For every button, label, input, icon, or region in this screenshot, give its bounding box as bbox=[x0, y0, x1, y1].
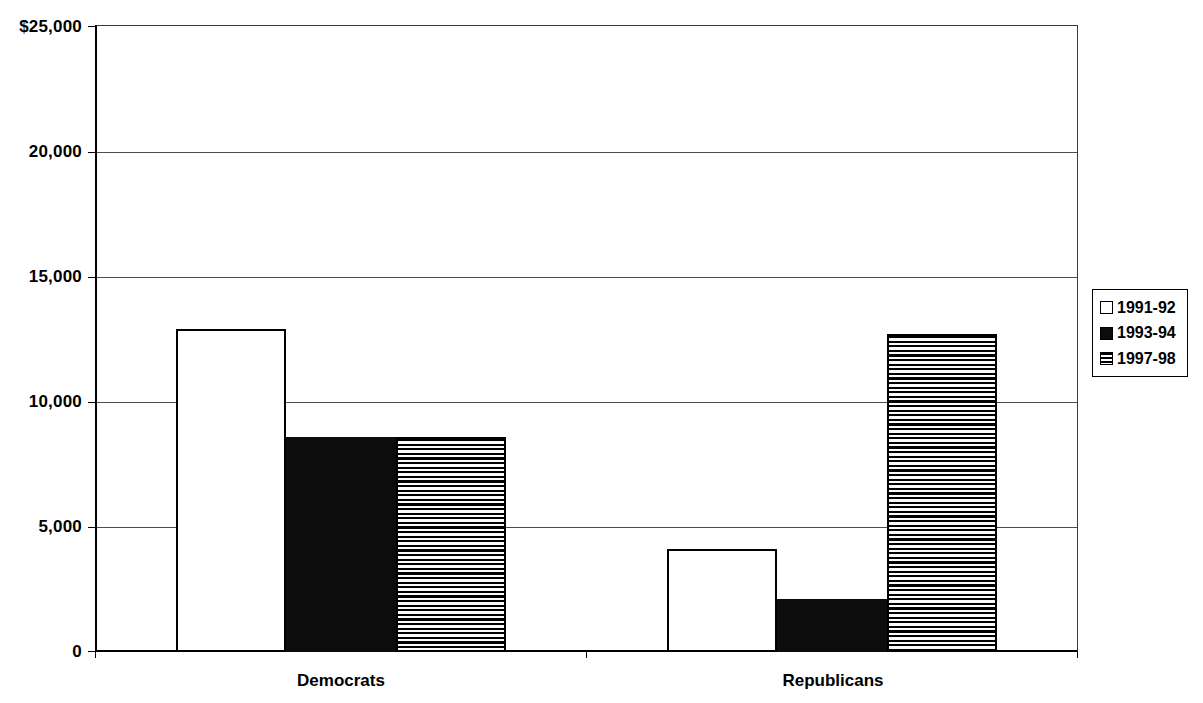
legend-label: 1993-94 bbox=[1117, 325, 1176, 341]
bar-republicans-1997-98 bbox=[887, 334, 997, 652]
bar-democrats-1997-98 bbox=[396, 437, 506, 652]
y-tick bbox=[88, 277, 96, 278]
gridline-15000 bbox=[97, 277, 1077, 278]
y-axis-label: 15,000 bbox=[0, 268, 82, 286]
y-tick bbox=[88, 152, 96, 153]
y-axis-label: 20,000 bbox=[0, 143, 82, 161]
legend-label: 1997-98 bbox=[1117, 351, 1176, 367]
y-tick bbox=[88, 527, 96, 528]
y-axis-label: $25,000 bbox=[0, 18, 82, 36]
bar-democrats-1993-94 bbox=[286, 437, 396, 652]
bar-chart: $25,000 20,000 15,000 10,000 5,000 0 Dem… bbox=[0, 0, 1203, 703]
legend-swatch-horizontal-stripes-icon bbox=[1100, 352, 1113, 365]
bar-democrats-1991-92 bbox=[176, 329, 286, 652]
legend-swatch-solid-black-icon bbox=[1100, 327, 1113, 340]
legend-item-1991-92: 1991-92 bbox=[1100, 300, 1187, 316]
legend: 1991-92 1993-94 1997-98 bbox=[1092, 289, 1188, 377]
y-axis-label: 5,000 bbox=[0, 518, 82, 536]
legend-item-1993-94: 1993-94 bbox=[1100, 325, 1187, 341]
bar-republicans-1993-94 bbox=[777, 599, 887, 652]
category-label-republicans: Republicans bbox=[782, 671, 883, 691]
y-tick bbox=[88, 26, 96, 27]
legend-swatch-solid-white-icon bbox=[1100, 301, 1113, 314]
legend-item-1997-98: 1997-98 bbox=[1100, 351, 1187, 367]
x-tick bbox=[586, 652, 587, 658]
legend-label: 1991-92 bbox=[1117, 300, 1176, 316]
category-label-democrats: Democrats bbox=[297, 671, 385, 691]
bar-republicans-1991-92 bbox=[667, 549, 777, 652]
x-tick bbox=[95, 652, 96, 658]
y-tick bbox=[88, 402, 96, 403]
y-axis-label: 0 bbox=[0, 643, 82, 661]
gridline-20000 bbox=[97, 152, 1077, 153]
y-axis-label: 10,000 bbox=[0, 393, 82, 411]
x-tick bbox=[1077, 652, 1078, 658]
